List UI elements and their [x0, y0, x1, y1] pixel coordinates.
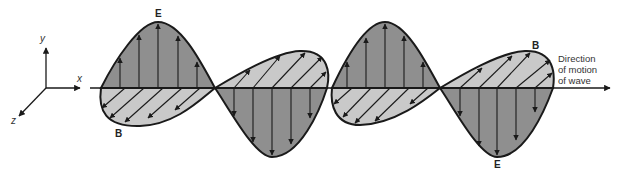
- coordinate-axes: [19, 48, 80, 116]
- y-axis-label: y: [40, 34, 45, 44]
- b-label-left: B: [115, 129, 122, 139]
- direction-line-2: of motion: [558, 64, 597, 75]
- direction-line-3: of wave: [558, 75, 597, 86]
- e-label-top: E: [155, 9, 162, 19]
- z-axis-label: z: [11, 116, 16, 126]
- direction-line-1: Direction: [558, 53, 597, 64]
- x-axis-label: x: [77, 74, 82, 84]
- em-wave-diagram: [0, 0, 617, 176]
- direction-label: Direction of motion of wave: [558, 53, 597, 86]
- e-label-bottom: E: [494, 160, 501, 170]
- b-label-right: B: [532, 41, 539, 51]
